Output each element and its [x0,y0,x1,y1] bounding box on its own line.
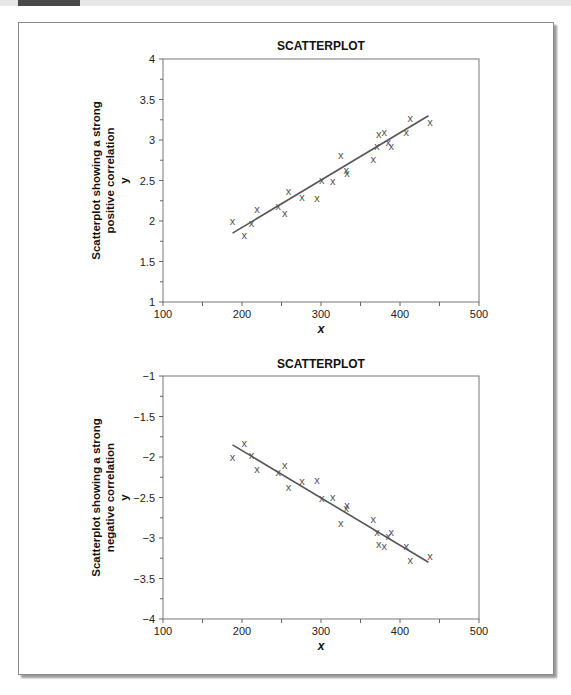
data-point-x-marker: x [404,126,410,138]
y-tick-label: −1.5 [133,411,155,423]
y-tick-label: 4 [149,53,155,65]
data-point-x-marker: x [254,463,260,475]
y-tick-label: 3.5 [140,94,155,106]
data-point-x-marker: x [344,499,350,511]
data-point-x-marker: x [427,116,433,128]
x-tick-label: 200 [233,308,251,320]
data-point-x-marker: x [254,203,260,215]
data-point-x-marker: x [404,540,410,552]
data-point-x-marker: x [282,207,288,219]
x-tick-label: 200 [233,625,251,637]
x-tick-label: 400 [391,308,409,320]
y-tick-label: −3.5 [133,573,155,585]
x-tick-label: 500 [470,308,488,320]
data-point-x-marker: x [389,140,395,152]
x-tick-label: 500 [470,625,488,637]
data-point-x-marker: x [427,550,433,562]
data-point-x-marker: x [314,474,320,486]
data-point-x-marker: x [314,192,320,204]
trendline [233,445,429,562]
data-point-x-marker: x [319,492,325,504]
data-point-x-marker: x [286,481,292,493]
data-point-x-marker: x [330,175,336,187]
data-point-x-marker: x [338,149,344,161]
data-point-x-marker: x [230,451,236,463]
scatterplot-positive: SCATTERPLOT11.522.533.54100200300400500x… [90,39,488,336]
data-point-x-marker: x [249,217,255,229]
charts-canvas: SCATTERPLOT11.522.533.54100200300400500x… [0,0,571,695]
data-point-x-marker: x [370,513,376,525]
data-point-x-marker: x [230,215,236,227]
y-tick-label: −2 [142,451,155,463]
data-point-x-marker: x [344,167,350,179]
data-point-x-marker: x [374,140,380,152]
data-point-x-marker: x [299,191,305,203]
x-tick-label: 100 [154,625,172,637]
chart-title: SCATTERPLOT [277,39,365,53]
data-point-x-marker: x [389,526,395,538]
y-tick-label: 2.5 [140,175,155,187]
data-point-x-marker: x [249,449,255,461]
data-point-x-marker: x [408,112,414,124]
data-point-x-marker: x [276,200,282,212]
y-tick-label: −2.5 [133,492,155,504]
y-tick-label: −1 [142,370,155,382]
data-point-x-marker: x [338,517,344,529]
x-axis-label: x [317,322,326,336]
data-point-x-marker: x [242,437,248,449]
data-point-x-marker: x [330,491,336,503]
x-tick-label: 300 [312,308,330,320]
data-point-x-marker: x [370,153,376,165]
x-tick-label: 300 [312,625,330,637]
y-tick-label: 3 [149,134,155,146]
data-point-x-marker: x [286,185,292,197]
scatterplot-negative: SCATTERPLOT−4−3.5−3−2.5−2−1.5−1100200300… [90,357,488,653]
data-point-x-marker: x [282,459,288,471]
y-axis-label: Scatterplot showing a strongpositive cor… [90,101,130,259]
chart-title: SCATTERPLOT [277,357,365,371]
y-tick-label: −4 [142,613,155,625]
y-tick-label: 1.5 [140,256,155,268]
y-tick-label: 1 [149,296,155,308]
y-tick-label: 2 [149,215,155,227]
data-point-x-marker: x [242,229,248,241]
data-point-x-marker: x [299,475,305,487]
data-point-x-marker: x [319,174,325,186]
y-axis-label: Scatterplot showing a strongnegative cor… [90,418,130,576]
data-point-x-marker: x [276,466,282,478]
x-axis-label: x [317,639,326,653]
data-point-x-marker: x [374,526,380,538]
x-tick-label: 400 [391,625,409,637]
data-point-x-marker: x [408,554,414,566]
x-tick-label: 100 [154,308,172,320]
y-tick-label: −3 [142,532,155,544]
